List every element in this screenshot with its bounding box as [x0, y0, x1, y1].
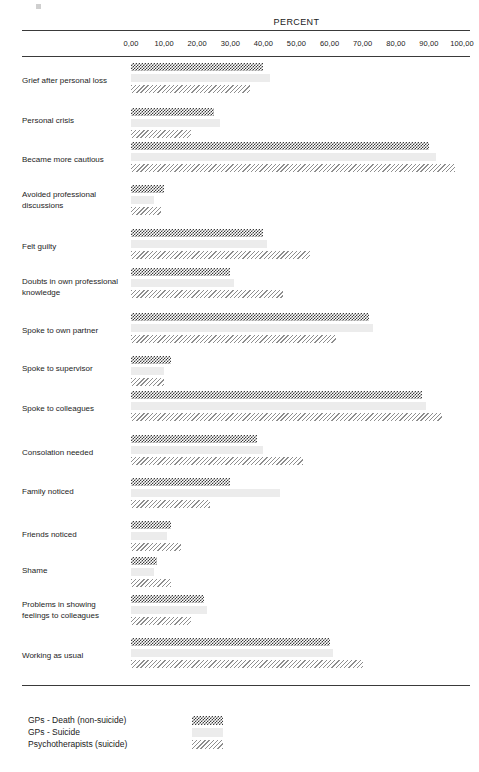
bar-segment [131, 313, 369, 321]
category-label: Avoided professional discussions [22, 190, 125, 211]
x-axis-tick-labels: 0,0010,0020,0030,0040,0050,0060,0070,008… [0, 39, 479, 52]
bar-segment [131, 108, 214, 116]
bar-segment [131, 413, 442, 421]
x-tick-label: 40,00 [254, 39, 273, 49]
category-label: Spoke to supervisor [22, 364, 125, 375]
category-label: Shame [22, 566, 125, 577]
bar-segment [131, 638, 330, 646]
category-label: Grief after personal loss [22, 76, 125, 87]
bar-segment [131, 164, 455, 172]
bar-segment [131, 240, 267, 248]
category-label: Spoke to own partner [22, 326, 125, 337]
x-tick-label: 30,00 [221, 39, 240, 49]
bar-segment [131, 649, 333, 657]
bar-segment [131, 196, 154, 204]
category-label: Friends noticed [22, 530, 125, 541]
bar-segment [131, 435, 257, 443]
bar-segment [131, 557, 157, 565]
x-tick-label: 70,00 [353, 39, 372, 49]
bar-segment [131, 290, 283, 298]
bar-segment [131, 617, 191, 625]
chart-legend: GPs - Death (non-suicide)GPs - SuicidePs… [0, 714, 479, 762]
bar-segment [131, 74, 270, 82]
axis-rule-bottom [22, 685, 470, 686]
bar-segment [131, 130, 191, 138]
legend-entry: Psychotherapists (suicide) [28, 738, 328, 751]
legend-label: Psychotherapists (suicide) [28, 738, 127, 751]
plot-area: Grief after personal lossPersonal crisis… [0, 57, 479, 684]
bar-segment [131, 268, 230, 276]
bar-segment [131, 356, 171, 364]
category-label: Problems in showing feelings to colleagu… [22, 600, 125, 621]
bar-segment [131, 378, 164, 386]
bar-segment [131, 402, 426, 410]
x-tick-label: 50,00 [287, 39, 306, 49]
x-tick-label: 10,00 [154, 39, 173, 49]
bar-segment [131, 568, 154, 576]
category-label: Working as usual [22, 651, 125, 662]
category-label: Consolation needed [22, 448, 125, 459]
bar-segment [131, 521, 171, 529]
category-label: Personal crisis [22, 116, 125, 127]
category-label: Spoke to colleagues [22, 404, 125, 415]
bar-segment [131, 489, 280, 497]
x-tick-label: 20,00 [188, 39, 207, 49]
bar-segment [131, 595, 204, 603]
bar-segment [131, 391, 422, 399]
bar-segment [131, 85, 250, 93]
legend-swatch [192, 728, 223, 737]
bar-segment [131, 606, 207, 614]
bar-segment [131, 367, 164, 375]
bar-segment [131, 579, 171, 587]
bar-segment [131, 532, 167, 540]
bar-segment [131, 660, 363, 668]
category-label: Family noticed [22, 487, 125, 498]
bar-segment [131, 457, 303, 465]
bar-segment [131, 279, 234, 287]
x-tick-label: 0,00 [124, 39, 139, 49]
x-tick-label: 100,00 [450, 39, 474, 49]
x-tick-label: 80,00 [386, 39, 405, 49]
bar-segment [131, 500, 210, 508]
bar-segment [131, 207, 161, 215]
bar-segment [131, 185, 164, 193]
axis-rule-top [22, 30, 470, 31]
category-label: Doubts in own professional knowledge [22, 277, 125, 298]
bar-segment [131, 543, 181, 551]
bar-segment [131, 119, 220, 127]
horizontal-bar-chart: PERCENT 0,0010,0020,0030,0040,0050,0060,… [0, 0, 479, 772]
bar-segment [131, 251, 310, 259]
legend-swatch [192, 716, 223, 725]
category-label: Became more cautious [22, 155, 125, 166]
bar-segment [131, 63, 263, 71]
category-label: Felt guilty [22, 242, 125, 253]
bar-segment [131, 335, 336, 343]
bar-segment [131, 153, 436, 161]
bar-segment [131, 142, 429, 150]
bar-segment [131, 229, 263, 237]
bar-segment [131, 478, 230, 486]
legend-swatch [192, 740, 223, 749]
bar-segment [131, 446, 263, 454]
bar-segment [131, 324, 373, 332]
x-axis-title: PERCENT [127, 17, 466, 28]
x-tick-label: 90,00 [419, 39, 438, 49]
x-tick-label: 60,00 [320, 39, 339, 49]
